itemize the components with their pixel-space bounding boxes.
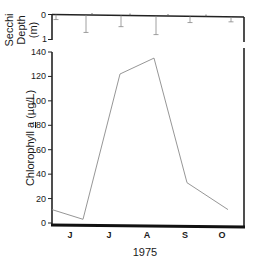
chart: Secchi Depth (m) 0 1 Chlorophyll a (µg/L… — [0, 0, 255, 263]
y-tick-label: 120 — [31, 71, 46, 81]
secchi-ytick-1: 1 — [42, 34, 47, 44]
x-tick-label: S — [182, 230, 188, 240]
y-tick-label: 60 — [36, 145, 46, 155]
secchi-ytick-0: 0 — [41, 10, 46, 20]
secchi-ylabel-line2: Depth — [15, 15, 27, 44]
secchi-ylabel-line1: Secchi — [3, 13, 15, 46]
x-tick-label: O — [218, 230, 225, 240]
secchi-bars — [54, 15, 234, 35]
y-tick-label: 100 — [31, 96, 46, 106]
y-tick-label: 80 — [36, 120, 46, 130]
y-tick-label: 0 — [41, 218, 46, 228]
x-axis-label: 1975 — [133, 246, 157, 258]
x-tick-label: J — [106, 230, 111, 240]
chlorophyll-line — [52, 58, 228, 219]
secchi-ylabel-line3: (m) — [27, 22, 39, 39]
y-tick-label: 20 — [36, 194, 46, 204]
chlorophyll-x-axis — [51, 225, 245, 227]
y-tick-label: 140 — [31, 47, 46, 57]
x-tick-label: J — [67, 230, 72, 240]
x-month-labels: JJASO — [67, 230, 225, 240]
x-tick-label: A — [144, 230, 151, 240]
y-tick-label: 40 — [36, 169, 46, 179]
secchi-panel: Secchi Depth (m) 0 1 — [3, 10, 244, 47]
secchi-top-axis — [52, 15, 244, 18]
chlorophyll-panel: Chlorophyll a (µg/L) 020406080100120140 … — [24, 47, 245, 258]
